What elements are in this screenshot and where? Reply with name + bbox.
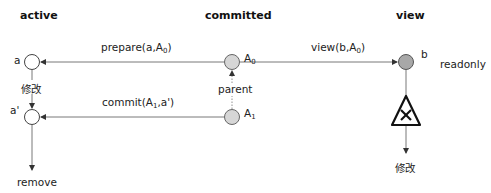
node-a — [25, 55, 40, 70]
remove-label: remove — [17, 176, 57, 188]
node-A1 — [225, 110, 240, 125]
node-b — [399, 55, 414, 70]
node-A0-label: A0 — [244, 52, 256, 64]
prepare-edge-label: prepare(a,A0) — [101, 41, 172, 53]
forbidden-warning-icon — [392, 96, 420, 125]
node-a-prime — [25, 110, 40, 125]
diagram-canvas — [0, 0, 491, 193]
column-header-view: view — [396, 9, 425, 22]
column-header-committed: committed — [205, 9, 272, 22]
view-edge-label: view(b,A0) — [311, 41, 365, 53]
node-a-label: a — [14, 54, 20, 66]
node-b-label: b — [421, 48, 428, 60]
node-A0 — [225, 55, 240, 70]
modify-active-label: 修改 — [21, 81, 41, 96]
node-a-prime-label: a' — [10, 104, 19, 116]
readonly-note: readonly — [440, 58, 486, 70]
modify-view-label: 修改 — [395, 160, 415, 175]
column-header-active: active — [20, 9, 58, 22]
node-A1-label: A1 — [244, 107, 256, 119]
commit-edge-label: commit(A1,a') — [102, 96, 174, 108]
parent-edge-label: parent — [218, 83, 252, 95]
